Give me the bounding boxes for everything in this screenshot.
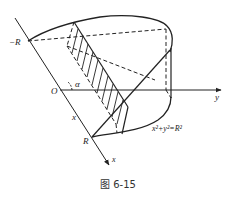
label-r: R <box>83 137 89 146</box>
label-x-mid: x <box>72 113 76 122</box>
figure-caption: 图 6-15 <box>0 176 236 191</box>
top-curve <box>28 16 172 52</box>
cross-section <box>72 22 128 134</box>
label-x-axis: x <box>112 156 116 164</box>
alpha-arc <box>68 82 72 90</box>
cylinder-wedge-diagram <box>0 0 236 199</box>
label-neg-r: −R <box>9 38 21 47</box>
hidden-lines <box>28 22 171 133</box>
label-alpha: α <box>75 80 80 89</box>
label-equation: x²+y²=R² <box>152 125 182 133</box>
label-y-axis: y <box>215 93 219 102</box>
label-origin: O <box>51 87 58 96</box>
